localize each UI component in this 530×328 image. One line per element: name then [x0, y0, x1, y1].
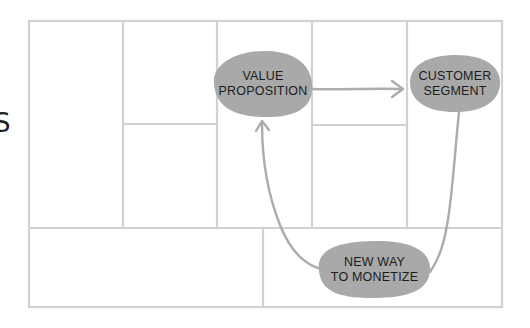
business-model-canvas	[0, 0, 530, 328]
value-proposition-line-2: PROPOSITION	[214, 84, 312, 99]
value-proposition-line-1: VALUE	[214, 69, 312, 84]
customer-segment-line-2: SEGMENT	[410, 84, 500, 99]
new-way-to-monetize-line-2: TO MONETIZE	[319, 270, 430, 285]
new-way-to-monetize-line-1: NEW WAY	[319, 255, 430, 270]
customer-segment-line-1: CUSTOMER	[410, 69, 500, 84]
line-customer-to-monetize	[430, 112, 459, 272]
arrow-value-to-customer	[312, 81, 403, 97]
customer-segment-label: CUSTOMER SEGMENT	[410, 69, 500, 99]
value-proposition-label: VALUE PROPOSITION	[214, 69, 312, 99]
arrow-monetize-to-value	[256, 121, 318, 268]
new-way-to-monetize-label: NEW WAY TO MONETIZE	[319, 255, 430, 285]
